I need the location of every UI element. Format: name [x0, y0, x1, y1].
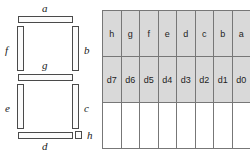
table-cell: d1 [214, 57, 233, 103]
table-cell: h [103, 11, 122, 57]
segment-label-g: g [42, 60, 48, 71]
table-cell: d0 [232, 57, 250, 103]
table-cell: d6 [121, 57, 140, 103]
segment-a [18, 16, 73, 23]
segment-b [72, 26, 79, 71]
table-cell: d4 [158, 57, 177, 103]
figure-root: a f b g e c d h h g f e d c b a d [0, 0, 250, 155]
table-cell: f [140, 11, 159, 57]
table-row-segment-names: h g f e d c b a [103, 11, 251, 57]
table-row-bit-names: d7 d6 d5 d4 d3 d2 d1 d0 [103, 57, 251, 103]
segment-d [18, 132, 73, 139]
table-cell [158, 103, 177, 149]
segment-label-f: f [5, 45, 8, 56]
table-cell: d [177, 11, 196, 57]
segment-label-e: e [5, 103, 10, 114]
segment-h-decimal-point [75, 131, 82, 139]
table-cell: d7 [103, 57, 122, 103]
segment-label-c: c [84, 103, 89, 114]
segment-label-d: d [42, 141, 48, 152]
segment-g [18, 74, 73, 81]
table-cell: g [121, 11, 140, 57]
table-cell: d2 [195, 57, 214, 103]
table-cell [103, 103, 122, 149]
segment-c [72, 84, 79, 129]
table-cell: c [195, 11, 214, 57]
segment-label-a: a [42, 3, 48, 14]
bit-table-container: h g f e d c b a d7 d6 d5 d4 d3 d2 d1 [102, 10, 242, 145]
table-cell: d5 [140, 57, 159, 103]
table-cell [232, 103, 250, 149]
table-cell: b [214, 11, 233, 57]
segment-f [17, 26, 24, 71]
segment-label-h: h [87, 130, 93, 141]
table-cell [121, 103, 140, 149]
table-cell: e [158, 11, 177, 57]
table-cell [214, 103, 233, 149]
table-cell: a [232, 11, 250, 57]
seven-segment-display: a f b g e c d h [0, 0, 102, 155]
table-cell: d3 [177, 57, 196, 103]
table-cell [140, 103, 159, 149]
table-cell [177, 103, 196, 149]
table-row-blank [103, 103, 251, 149]
segment-label-b: b [84, 45, 90, 56]
segment-e [17, 84, 24, 129]
segment-to-bit-mapping-table: h g f e d c b a d7 d6 d5 d4 d3 d2 d1 [102, 10, 250, 149]
table-cell [195, 103, 214, 149]
